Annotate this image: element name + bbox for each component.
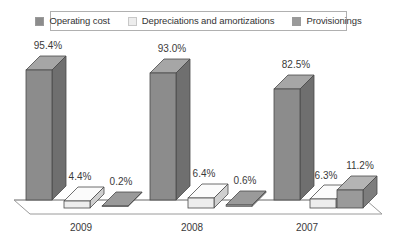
legend-swatch-depreciations xyxy=(128,17,137,26)
bar-2009-provisionings xyxy=(102,192,146,212)
data-label-2009-operating-cost: 95.4% xyxy=(18,40,78,51)
category-label-2009: 2009 xyxy=(51,222,111,233)
data-label-2009-depreciations: 4.4% xyxy=(58,171,102,182)
data-label-2008-provisionings: 0.6% xyxy=(225,175,265,186)
bar-chart: Operating cost Depreciations and amortiz… xyxy=(0,0,395,242)
data-label-2007-provisionings: 11.2% xyxy=(337,160,383,171)
data-label-2008-operating-cost: 93.0% xyxy=(142,43,202,54)
bar-2008-provisionings xyxy=(226,191,270,212)
bar-2007-provisionings xyxy=(337,176,383,214)
data-label-2008-depreciations: 6.4% xyxy=(182,168,226,179)
legend-label-operating-cost: Operating cost xyxy=(49,16,109,26)
bar-2008-operating-cost xyxy=(150,59,194,204)
data-label-2007-operating-cost: 82.5% xyxy=(266,59,326,70)
data-label-2009-provisionings: 0.2% xyxy=(101,176,141,187)
legend-item-operating-cost: Operating cost xyxy=(35,16,109,26)
category-label-2007: 2007 xyxy=(277,222,337,233)
category-label-2008: 2008 xyxy=(162,222,222,233)
legend-swatch-operating-cost xyxy=(35,17,44,26)
legend-label-depreciations: Depreciations and amortizations xyxy=(142,16,275,26)
legend-label-provisionings: Provisionings xyxy=(306,16,361,26)
chart-legend: Operating cost Depreciations and amortiz… xyxy=(50,11,347,31)
legend-item-provisionings: Provisionings xyxy=(292,16,361,26)
data-label-2007-depreciations: 6.3% xyxy=(304,170,348,181)
legend-swatch-provisionings xyxy=(292,17,301,26)
legend-item-depreciations: Depreciations and amortizations xyxy=(128,16,275,26)
